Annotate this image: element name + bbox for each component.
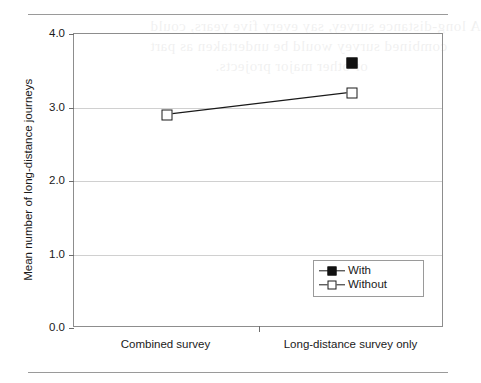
legend-item[interactable]: With	[319, 264, 418, 278]
data-point-marker	[346, 58, 357, 69]
x-tick-mark	[259, 326, 260, 332]
x-tick-label: Long-distance survey only	[284, 339, 418, 351]
legend-label: With	[348, 265, 371, 277]
legend-label: Without	[348, 279, 387, 291]
data-point-marker	[161, 109, 172, 120]
legend-marker-icon	[319, 265, 345, 277]
y-tick-mark	[69, 328, 74, 329]
legend-square-icon	[328, 267, 337, 276]
legend-marker-icon	[319, 279, 345, 291]
chart-legend: WithWithout	[313, 260, 424, 297]
y-tick-label: 1.0	[49, 249, 65, 261]
series-line	[166, 92, 350, 114]
y-tick-label: 0.0	[49, 322, 65, 334]
legend-item[interactable]: Without	[319, 278, 418, 292]
y-axis-title: Mean number of long-distance journeys	[21, 33, 37, 327]
data-point-marker	[346, 87, 357, 98]
y-tick-label: 3.0	[49, 102, 65, 114]
legend-square-icon	[328, 281, 337, 290]
y-tick-label: 4.0	[49, 28, 65, 40]
y-axis-title-text: Mean number of long-distance journeys	[23, 79, 35, 281]
y-tick-label: 2.0	[49, 175, 65, 187]
x-tick-label: Combined survey	[121, 339, 210, 351]
